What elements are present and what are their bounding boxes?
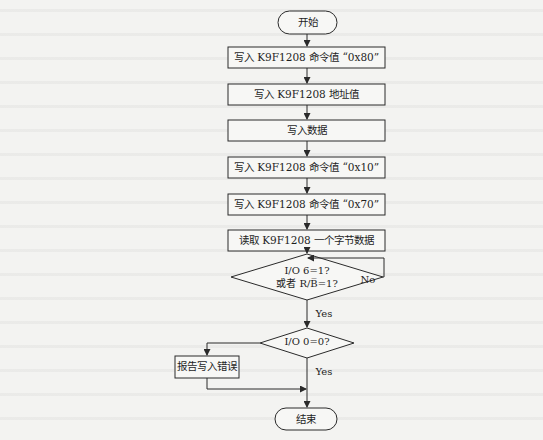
step-label-3: 写入数据 [228,124,385,137]
decision2-label: I/O 0=0? [267,336,347,348]
flowchart-shapes [0,0,543,440]
error-label: 报告写入错误 [175,360,239,373]
step-label-4: 写入 K9F1208 命令值 “0x10” [228,161,385,174]
start-label: 开始 [278,16,337,29]
decision1-line2: 或者 R/B̅=1? [257,278,357,290]
decision1-line1: I/O 6=1? [257,265,357,277]
decision2-yes-label: Yes [312,366,336,378]
end-label: 结束 [275,413,337,426]
decision1-yes-label: Yes [312,308,336,320]
step-label-6: 读取 K9F1208 一个字节数据 [228,234,385,247]
step-label-1: 写入 K9F1208 命令值 “0x80” [228,51,385,64]
decision1-no-label: No [358,274,378,286]
step-label-2: 写入 K9F1208 地址值 [228,88,385,101]
step-label-5: 写入 K9F1208 命令值 “0x70” [228,198,385,211]
